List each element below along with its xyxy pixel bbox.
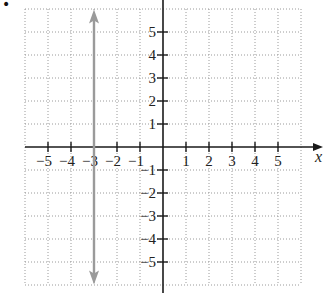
y-tick-label: 5 [149,24,157,40]
y-tick-label: −4 [140,231,156,247]
y-tick-label: 2 [149,93,157,109]
x-tick-label: 4 [251,153,259,169]
y-tick-label: −1 [140,162,156,178]
y-tick-label: −2 [140,185,156,201]
x-tick-label: 1 [182,153,190,169]
x-tick-label: −2 [105,153,121,169]
x-tick-label: −5 [36,153,52,169]
x-tick-label: 2 [205,153,213,169]
x-tick-label: −4 [59,153,75,169]
x-tick-label: 5 [274,153,282,169]
x-tick-label: 3 [228,153,236,169]
y-tick-label: −3 [140,208,156,224]
y-tick-label: 1 [149,116,157,132]
y-tick-label: 3 [149,70,157,86]
x-tick-label: −3 [82,153,98,169]
coordinate-plane: x−5−4−3−2−112345−5−4−3−2−112345 [0,0,326,293]
y-tick-label: −5 [140,254,156,270]
y-tick-label: 4 [149,47,157,63]
x-axis-label: x [314,148,322,165]
